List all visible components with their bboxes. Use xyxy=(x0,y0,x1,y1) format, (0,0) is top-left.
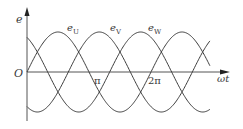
series-label-eU: e U xyxy=(67,22,79,36)
origin-label: O xyxy=(14,67,23,80)
x-tick-label-2pi: 2π xyxy=(148,75,161,86)
waveform-plot: e O ωt π 2π e U e V e W xyxy=(0,0,243,129)
x-tick-label-pi: π xyxy=(94,75,101,86)
y-axis-label: e xyxy=(16,13,23,26)
y-axis-arrow-icon xyxy=(25,7,30,16)
axes xyxy=(25,7,231,121)
svg-text:U: U xyxy=(73,28,79,36)
series-label-eV: e V xyxy=(110,22,122,36)
x-axis-label: ωt xyxy=(217,73,230,84)
three-phase-emf-diagram: e O ωt π 2π e U e V e W xyxy=(0,0,243,129)
svg-text:V: V xyxy=(115,28,122,36)
series-label-eW: e W xyxy=(148,22,162,36)
svg-text:W: W xyxy=(154,28,162,36)
